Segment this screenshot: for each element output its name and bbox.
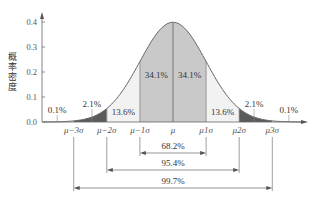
arrow-left-icon — [107, 168, 113, 172]
normal-distribution-chart: 0.00.10.20.30.4 μ−3σμ−2σμ−1σμμ1σμ2σμ3σ 0… — [0, 0, 314, 205]
arrow-left-icon — [140, 151, 146, 155]
region-percent-label: 0.1% — [48, 105, 67, 115]
region-percent-label: 13.6% — [211, 107, 235, 117]
x-ticks: μ−3σμ−2σμ−1σμμ1σμ2σμ3σ — [63, 125, 280, 135]
x-tick-label: μ−1σ — [129, 125, 150, 135]
region-percent-label: 2.1% — [245, 99, 264, 109]
range-percent-label: 68.2% — [161, 141, 185, 151]
x-tick-label: μ3σ — [265, 125, 280, 135]
range-percent-label: 95.4% — [161, 158, 185, 168]
y-tick-label: 0.3 — [26, 42, 37, 52]
region-percent-label: 34.1% — [178, 70, 202, 80]
region-percent-label: 0.1% — [279, 105, 298, 115]
region-percent-label: 2.1% — [83, 99, 102, 109]
y-axis-label: 概率密度 — [7, 51, 17, 92]
x-tick-label: μ−3σ — [63, 125, 84, 135]
x-tick-label: μ1σ — [198, 125, 213, 135]
region-percent-label: 13.6% — [112, 107, 136, 117]
y-axis-arrow-icon — [40, 12, 44, 19]
x-tick-label: μ2σ — [231, 125, 246, 135]
arrow-right-icon — [233, 168, 239, 172]
x-tick-label: μ — [170, 125, 176, 135]
arrow-right-icon — [266, 186, 272, 190]
y-tick-label: 0.2 — [26, 67, 37, 77]
arrow-right-icon — [200, 151, 206, 155]
range-percent-label: 99.7% — [161, 176, 185, 186]
region-percent-label: 34.1% — [145, 70, 169, 80]
y-tick-label: 0.0 — [26, 117, 37, 127]
arrow-left-icon — [74, 186, 80, 190]
y-tick-label: 0.1 — [26, 92, 37, 102]
range-brackets: 68.2%95.4%99.7% — [74, 137, 273, 191]
x-axis-arrow-icon — [301, 120, 308, 124]
x-tick-label: μ−2σ — [96, 125, 117, 135]
y-tick-label: 0.4 — [26, 17, 37, 27]
